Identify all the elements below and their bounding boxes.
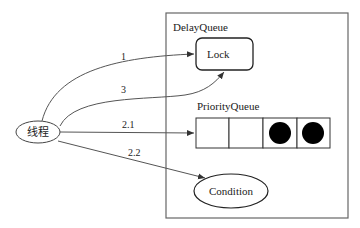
queue-token-icon xyxy=(269,122,291,144)
queue-slot-2 xyxy=(229,118,263,148)
edge-label-2-1: 2.1 xyxy=(122,119,135,130)
condition-label: Condition xyxy=(209,185,254,197)
queue-token-icon xyxy=(302,122,324,144)
queue-slot-1 xyxy=(196,118,229,148)
edge-label-3: 3 xyxy=(121,84,126,95)
edge-label-2-2: 2.2 xyxy=(128,147,141,158)
priority-queue-slots xyxy=(196,118,330,148)
edge-1 xyxy=(42,54,194,121)
edge-label-1: 1 xyxy=(121,51,126,62)
delayqueue-diagram: DelayQueue Lock PriorityQueue Condition … xyxy=(0,0,360,228)
priority-queue-label: PriorityQueue xyxy=(197,100,259,112)
thread-label: 线程 xyxy=(27,125,49,138)
lock-label: Lock xyxy=(207,48,230,60)
delayqueue-label: DelayQueue xyxy=(173,21,228,33)
edge-2-1 xyxy=(60,132,194,133)
